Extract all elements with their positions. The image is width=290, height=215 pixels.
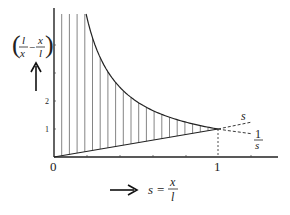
y-axis-label: ( l x − x l ) [12,30,54,59]
x-axis-label: s = x l [148,175,178,204]
y-tick-label-2: 2 [45,97,49,106]
up-arrow-icon [31,63,41,91]
label-one-over-s-den: s [255,139,259,151]
svg-text:−: − [29,41,35,53]
svg-text:x: x [19,47,25,59]
svg-text:): ) [45,30,54,59]
line-s [54,129,218,157]
svg-text:s: s [148,182,153,197]
right-arrow-icon [110,185,137,195]
dashed-extension-s [218,122,252,129]
y-tick-label-1: 1 [45,125,49,134]
svg-text:=: = [157,182,164,197]
svg-text:x: x [37,34,43,46]
svg-text:l: l [22,34,25,46]
origin-label: 0 [50,159,57,174]
x-tick-label-1: 1 [214,159,221,174]
svg-text:l: l [39,47,42,59]
svg-text:l: l [171,190,175,204]
dashed-extension-one-over-s [218,129,252,134]
hyperbola-area-diagram: 1 2 0 1 s 1 s ( l x − x l ) s = x l [0,0,290,215]
curve-one-over-s [86,14,218,129]
svg-text:x: x [169,175,176,189]
label-s: s [241,109,246,123]
